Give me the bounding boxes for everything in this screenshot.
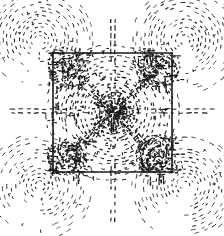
cluster-arc [62, 70, 65, 71]
cluster-arc [139, 159, 140, 161]
lobe-contour-dash [144, 187, 145, 192]
field-tick [93, 177, 94, 179]
center-hatch [120, 121, 121, 124]
cluster-tick [78, 175, 79, 178]
lobe-contour-dash [198, 182, 199, 184]
lobe-contour-dash [68, 34, 69, 38]
axis-dash [42, 113, 47, 114]
field-map-canvas [0, 0, 224, 236]
inner-axis-dash [151, 109, 155, 110]
lobe-contour-dash [148, 180, 149, 185]
center-hatch [118, 98, 119, 101]
center-contour-dash [122, 109, 123, 111]
cluster-arc [148, 55, 151, 56]
center-contour-dash [93, 118, 94, 120]
center-contour-dash [155, 116, 156, 120]
center-contour-dash [117, 74, 121, 75]
cluster-arc [156, 169, 159, 170]
cluster-arc [60, 152, 61, 154]
lobe-contour-dash [189, 157, 193, 158]
cluster-arc [66, 150, 67, 152]
inner-axis-dash [70, 113, 73, 114]
center-contour-dash [71, 100, 72, 103]
lobe-contour-dash [157, 42, 158, 46]
center-contour-dash [107, 151, 109, 152]
lobe-contour-dash [68, 180, 69, 183]
axis-dash [34, 113, 39, 114]
spoke-dash [78, 77, 79, 80]
cluster-arc [51, 159, 52, 162]
center-hatch [107, 115, 110, 116]
lobe-contour-dash [180, 23, 183, 24]
center-hatch [116, 111, 120, 112]
center-contour-dash [140, 105, 141, 107]
center-contour-dash [105, 145, 108, 146]
cluster-arc [168, 151, 169, 153]
lobe-radial-whisker [47, 0, 48, 1]
center-hatch [113, 117, 114, 120]
cluster-arc [63, 153, 64, 155]
cluster-arc [141, 71, 142, 72]
cluster-arc [137, 72, 138, 75]
lobe-contour-dash [171, 36, 172, 39]
lobe-radial-whisker [219, 172, 221, 173]
cluster-arc [79, 65, 80, 68]
cluster-arc [150, 61, 152, 62]
inner-axis-dash [115, 144, 116, 148]
spoke-tick [95, 123, 97, 124]
center-hatch [130, 114, 133, 115]
cluster-arc [136, 160, 137, 162]
cluster-arc [145, 77, 147, 78]
field-tick [58, 105, 59, 109]
field-tick [120, 93, 122, 94]
lobe-contour-dash [42, 16, 46, 17]
center-hatch [122, 113, 126, 114]
center-contour-dash [134, 106, 135, 108]
cluster-arc [135, 66, 136, 68]
center-contour-dash [117, 55, 122, 56]
cluster-arc [167, 81, 169, 82]
cluster-arc [141, 158, 142, 161]
lobe-contour-dash [7, 41, 8, 45]
cluster-arc [155, 83, 158, 84]
center-contour-dash [179, 102, 180, 107]
lobe-contour-dash [10, 34, 11, 38]
center-hatch [123, 116, 125, 117]
field-tick [47, 120, 50, 121]
cluster-arc [178, 57, 179, 59]
cluster-arc [79, 154, 80, 157]
center-contour-dash [156, 109, 157, 113]
center-contour-dash [107, 138, 110, 139]
center-contour-dash [144, 119, 145, 122]
axis-dash [111, 218, 112, 222]
field-tick [112, 148, 115, 149]
lobe-contour-dash [186, 6, 190, 7]
center-contour-dash [105, 92, 108, 93]
cluster-arc [176, 67, 177, 70]
cluster-arc [153, 164, 156, 165]
cluster-arc [49, 58, 50, 60]
center-contour-dash [104, 140, 106, 141]
field-tick [110, 134, 112, 135]
figure-root: Contour / flux-line field map of a squar… [0, 0, 224, 236]
center-contour-dash [89, 107, 90, 109]
center-hatch [99, 116, 103, 117]
cluster-arc [143, 147, 144, 150]
center-hatch [117, 112, 120, 113]
inner-axis-dash [111, 144, 112, 147]
cluster-arc [160, 54, 163, 55]
axis-dash [11, 113, 15, 114]
cluster-arc [75, 60, 76, 62]
center-contour-dash [105, 114, 106, 117]
center-contour-dash [119, 137, 122, 138]
cluster-arc [74, 163, 77, 164]
axis-dash [202, 109, 205, 110]
center-hatch [121, 114, 124, 115]
field-tick [131, 163, 133, 164]
cluster-arc [166, 160, 167, 163]
field-tick [101, 79, 102, 81]
lobe-radial-whisker [193, 69, 194, 72]
center-hatch [95, 117, 98, 118]
cluster-arc [139, 65, 140, 68]
center-hatch [104, 110, 107, 111]
